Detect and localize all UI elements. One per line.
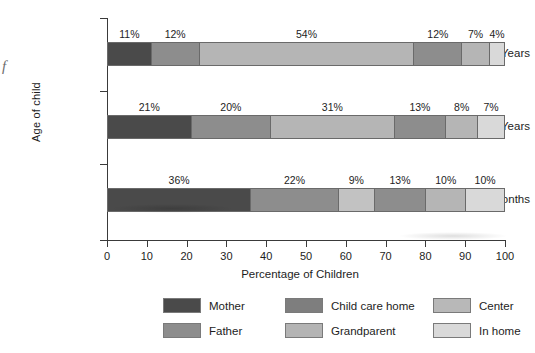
bar-segment: 7% (477, 115, 505, 139)
legend-item: In home (433, 323, 535, 338)
bar-segment: 54% (199, 42, 414, 66)
scan-edge-glyph: f (2, 58, 6, 75)
stacked-bar: 11%12%54%12%7%4% (107, 42, 505, 66)
legend-item: Grandparent (285, 323, 433, 338)
legend-label: Center (479, 300, 514, 312)
bar-segment: 9% (338, 188, 374, 212)
x-axis-tick-label: 20 (167, 250, 207, 262)
legend-swatch (285, 323, 323, 338)
x-axis-tick (226, 240, 227, 247)
bar-segment-value-label: 31% (322, 101, 343, 113)
legend-swatch (163, 323, 201, 338)
bar-segment-value-label: 10% (435, 174, 456, 186)
bar-segment-value-label: 13% (389, 174, 410, 186)
bar-segment-value-label: 36% (169, 174, 190, 186)
x-axis-tick (147, 240, 148, 247)
x-axis-tick-label: 50 (286, 250, 326, 262)
legend-label: Mother (209, 300, 245, 312)
bar-segment: 12% (151, 42, 199, 66)
bar-segment: 10% (465, 188, 505, 212)
x-axis-title: Percentage of Children (0, 268, 530, 280)
bar-segment: 13% (394, 115, 446, 139)
legend-item: Mother (163, 298, 285, 313)
x-axis-tick (346, 240, 347, 247)
legend-swatch (433, 298, 471, 313)
y-axis-tick (100, 91, 107, 92)
legend-label: Child care home (331, 300, 415, 312)
legend-label: Grandparent (331, 325, 396, 337)
legend-swatch (163, 298, 201, 313)
x-axis-tick-label: 10 (127, 250, 167, 262)
x-axis-tick-label: 90 (445, 250, 485, 262)
y-axis-title: Age of child (30, 52, 42, 172)
stacked-bar: 36%22%9%13%10%10% (107, 188, 505, 212)
bar-segment: 8% (445, 115, 477, 139)
bar-segment: 36% (107, 188, 250, 212)
bar-segment-value-label: 12% (427, 28, 448, 40)
y-axis-tick (100, 240, 107, 241)
bar-segment-value-label: 12% (165, 28, 186, 40)
bar-segment-value-label: 7% (483, 101, 498, 113)
bar-segment-value-label: 20% (220, 101, 241, 113)
x-axis-tick (187, 240, 188, 247)
bar-segment: 20% (191, 115, 271, 139)
legend-swatch (433, 323, 471, 338)
y-axis-tick (100, 164, 107, 165)
x-axis-tick (306, 240, 307, 247)
bar-segment: 12% (413, 42, 461, 66)
bar-segment-value-label: 21% (139, 101, 160, 113)
bar-segment: 7% (461, 42, 489, 66)
x-axis-tick-label: 70 (366, 250, 406, 262)
bar-segment-value-label: 22% (284, 174, 305, 186)
bar-segment-value-label: 4% (489, 28, 504, 40)
legend-item: Father (163, 323, 285, 338)
x-axis-tick-label: 80 (405, 250, 445, 262)
x-axis-tick (425, 240, 426, 247)
bar-segment: 22% (250, 188, 338, 212)
x-axis-tick (266, 240, 267, 247)
x-axis-tick-label: 30 (206, 250, 246, 262)
legend-swatch (285, 298, 323, 313)
bar-segment-value-label: 11% (119, 28, 139, 40)
bar-segment-value-label: 54% (296, 28, 317, 40)
bar-segment-value-label: 7% (468, 28, 483, 40)
bar-row: 21%20%31%13%8%7% (107, 115, 505, 139)
bar-segment-value-label: 10% (475, 174, 496, 186)
bar-segment: 11% (107, 42, 151, 66)
legend-item: Child care home (285, 298, 433, 313)
bar-segment: 4% (489, 42, 505, 66)
bar-segment: 31% (270, 115, 393, 139)
x-axis-tick-label: 100 (485, 250, 525, 262)
chart-legend: MotherChild care homeCenterFatherGrandpa… (163, 293, 535, 343)
x-axis-tick-label: 0 (87, 250, 127, 262)
x-axis-tick (107, 240, 108, 247)
bar-row: 36%22%9%13%10%10% (107, 188, 505, 212)
bar-segment-value-label: 8% (454, 101, 469, 113)
bar-segment: 10% (425, 188, 465, 212)
bar-segment-value-label: 13% (409, 101, 430, 113)
legend-label: Father (209, 325, 242, 337)
bar-segment: 21% (107, 115, 191, 139)
x-axis-tick (465, 240, 466, 247)
bar-segment-value-label: 9% (349, 174, 364, 186)
x-axis-tick (386, 240, 387, 247)
legend-label: In home (479, 325, 521, 337)
x-axis-tick-label: 40 (246, 250, 286, 262)
bar-segment: 13% (374, 188, 426, 212)
stacked-bar: 21%20%31%13%8%7% (107, 115, 505, 139)
bar-row: 11%12%54%12%7%4% (107, 42, 505, 66)
x-axis-tick (505, 240, 506, 247)
y-axis-tick (100, 18, 107, 19)
x-axis-tick-label: 60 (326, 250, 366, 262)
plot-area: 11%12%54%12%7%4%21%20%31%13%8%7%36%22%9%… (107, 18, 505, 240)
legend-item: Center (433, 298, 535, 313)
